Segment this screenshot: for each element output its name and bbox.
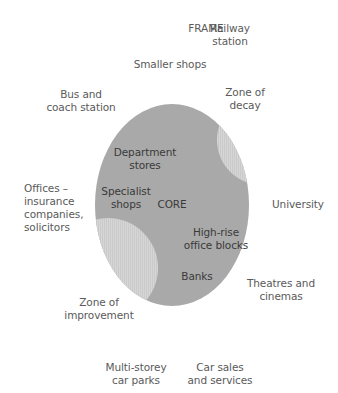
label-offices: Offices – insurance companies, solicitor…: [24, 182, 104, 234]
label-core: CORE: [152, 198, 192, 211]
label-smaller-shops: Smaller shops: [125, 58, 215, 71]
label-zone-of-improvement: Zone of improvement: [56, 296, 142, 322]
label-university: University: [268, 198, 328, 211]
label-department-stores: Department stores: [102, 146, 188, 172]
label-theatres-cinemas: Theatres and cinemas: [240, 277, 322, 303]
label-railway-station: Railway station: [200, 22, 260, 48]
label-zone-of-decay: Zone of decay: [215, 86, 275, 112]
label-banks: Banks: [172, 270, 222, 283]
label-multi-storey-car-parks: Multi-storey car parks: [96, 361, 176, 387]
label-high-rise-office-blocks: High-rise office blocks: [176, 226, 256, 252]
label-car-sales-services: Car sales and services: [180, 361, 260, 387]
label-bus-coach-station: Bus and coach station: [40, 88, 122, 114]
label-specialist-shops: Specialist shops: [98, 185, 154, 211]
